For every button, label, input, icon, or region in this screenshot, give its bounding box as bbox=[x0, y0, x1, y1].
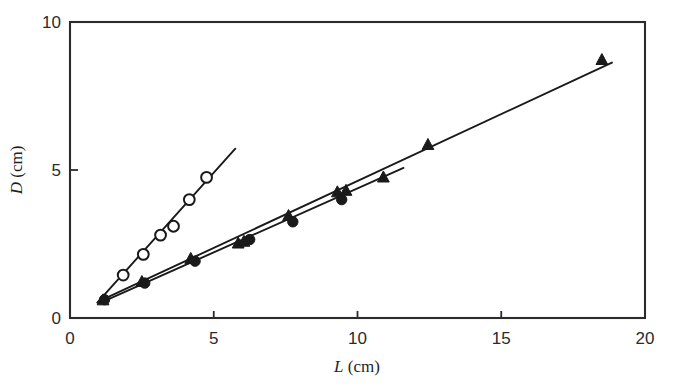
scatter-plot: 051015200510 L (cm) D (cm) bbox=[0, 0, 676, 392]
x-tick-label: 15 bbox=[492, 329, 511, 348]
y-tick-label: 10 bbox=[42, 13, 61, 32]
data-point-filled-triangles bbox=[422, 138, 434, 149]
data-point-open-circles bbox=[201, 172, 212, 183]
x-tick-label: 10 bbox=[348, 329, 367, 348]
fit-line-filled-triangles bbox=[99, 63, 612, 302]
data-point-filled-triangles bbox=[377, 171, 389, 182]
fit-line-open-circles bbox=[97, 149, 235, 303]
data-point-open-circles bbox=[168, 221, 179, 232]
axes-frame bbox=[70, 22, 645, 318]
figure-container: 051015200510 L (cm) D (cm) bbox=[0, 0, 676, 392]
x-tick-label: 20 bbox=[636, 329, 655, 348]
y-tick-label: 0 bbox=[52, 309, 61, 328]
data-point-open-circles bbox=[118, 270, 129, 281]
x-tick-label: 5 bbox=[209, 329, 218, 348]
data-point-filled-triangles bbox=[340, 184, 352, 195]
data-point-filled-circles bbox=[140, 278, 150, 288]
data-point-open-circles bbox=[184, 194, 195, 205]
axis-ticks bbox=[70, 170, 501, 318]
data-point-filled-circles bbox=[288, 217, 298, 227]
data-point-open-circles bbox=[138, 249, 149, 260]
y-axis-label: D (cm) bbox=[7, 146, 26, 196]
data-point-filled-circles bbox=[244, 234, 254, 244]
data-point-filled-circles bbox=[190, 256, 200, 266]
data-point-filled-circles bbox=[336, 194, 346, 204]
axis-tick-labels: 051015200510 bbox=[42, 13, 654, 348]
series-fit-lines bbox=[97, 63, 612, 303]
data-point-filled-circles bbox=[99, 294, 109, 304]
x-tick-label: 0 bbox=[65, 329, 74, 348]
data-point-filled-triangles bbox=[596, 53, 608, 64]
data-point-open-circles bbox=[155, 230, 166, 241]
y-tick-label: 5 bbox=[52, 161, 61, 180]
x-axis-label: L (cm) bbox=[333, 357, 380, 376]
